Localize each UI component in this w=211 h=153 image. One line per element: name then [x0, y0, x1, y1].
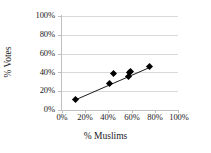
y-axis-title: % Votes: [3, 32, 13, 92]
y-tick-label-60: 60%: [27, 49, 55, 58]
y-tick-mark-60: [58, 54, 61, 55]
x-tick-label-100: 100%: [164, 112, 194, 122]
x-axis-line: [61, 110, 179, 111]
trendline: [62, 16, 178, 110]
y-tick-mark-100: [58, 16, 61, 17]
y-tick-mark-80: [58, 35, 61, 36]
y-tick-mark-40: [58, 72, 61, 73]
plot-area: [62, 16, 178, 110]
y-tick-mark-20: [58, 91, 61, 92]
x-axis-title: % Muslims: [0, 131, 211, 141]
y-tick-label-80: 80%: [27, 30, 55, 39]
y-tick-label-20: 20%: [27, 86, 55, 95]
scatter-chart: 100% 80% 60% 40% 20% 0% 0% 20% 40% 60% 8…: [0, 0, 211, 153]
y-tick-label-40: 40%: [27, 68, 55, 77]
y-tick-label-100: 100%: [27, 11, 55, 20]
